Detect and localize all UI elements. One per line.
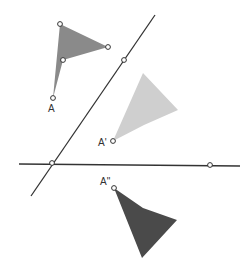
- first-reflection-vertex-0-handle[interactable]: [111, 139, 116, 144]
- intersection-point-handle[interactable]: [50, 161, 55, 166]
- first-reflection-shape: [113, 73, 178, 141]
- original-vertex-3-handle[interactable]: [51, 96, 56, 101]
- diagram-svg: A A' A": [0, 0, 251, 272]
- second-reflection-shape: [114, 188, 177, 258]
- second-reflection-vertex-0-handle[interactable]: [112, 186, 117, 191]
- label-A-double-prime: A": [100, 176, 111, 187]
- original-vertex-0-handle[interactable]: [58, 22, 63, 27]
- diagonal-point-handle[interactable]: [122, 58, 127, 63]
- labels-layer: A A' A": [48, 103, 111, 187]
- label-A-prime: A': [98, 137, 107, 148]
- original-vertex-2-handle[interactable]: [61, 58, 66, 63]
- original-vertex-1-handle[interactable]: [106, 45, 111, 50]
- reflection-diagram: A A' A": [0, 0, 251, 272]
- horizontal-point-handle[interactable]: [208, 163, 213, 168]
- label-A: A: [48, 103, 55, 114]
